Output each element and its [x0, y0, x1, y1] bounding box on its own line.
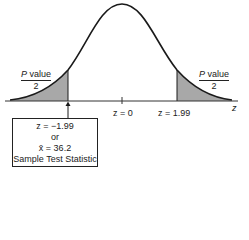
test-statistic-box: z = −1.99 or x̄ = 36.2 Sample Test Stati…	[12, 118, 98, 167]
right-tail-label: P value 2	[186, 70, 242, 91]
right-tail-denominator: 2	[186, 82, 242, 91]
right-tail-numerator: value	[205, 69, 229, 79]
axis-label: z	[232, 104, 237, 113]
test-statistic-z: z = −1.99	[13, 121, 97, 132]
test-statistic-xbar: x̄ = 36.2	[13, 143, 97, 154]
left-tail-denominator: 2	[8, 82, 64, 91]
left-tail-numerator: value	[27, 69, 51, 79]
test-statistic-or: or	[13, 132, 97, 143]
right-critical-label: z = 1.99	[158, 109, 190, 118]
arrow-head-icon	[66, 102, 71, 107]
test-statistic-caption: Sample Test Statistic	[13, 154, 97, 165]
left-tail-label: P value 2	[8, 70, 64, 91]
center-label: z = 0	[113, 109, 133, 118]
